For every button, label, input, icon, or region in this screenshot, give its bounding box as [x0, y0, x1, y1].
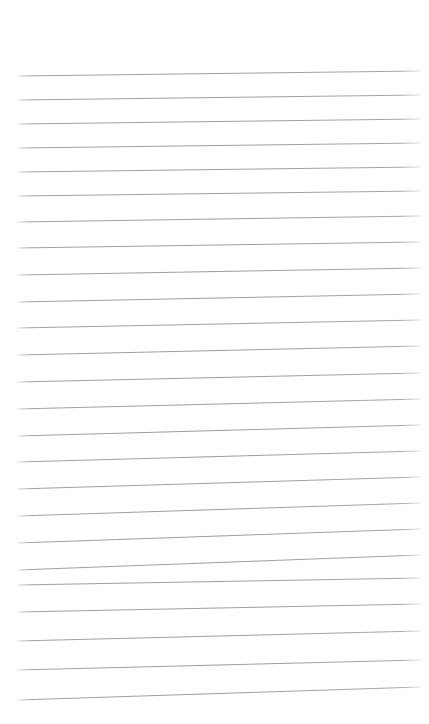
- lined-paper-page: [0, 0, 429, 724]
- writing-area[interactable]: [0, 0, 429, 724]
